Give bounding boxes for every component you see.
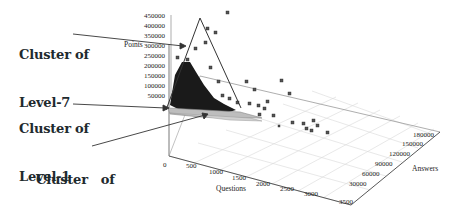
svg-text:350000: 350000 [144, 32, 166, 40]
svg-text:1500: 1500 [232, 174, 247, 182]
x-axis-label: Questions [216, 184, 246, 193]
svg-text:500: 500 [186, 162, 197, 170]
svg-text:1000: 1000 [209, 168, 224, 176]
svg-text:2500: 2500 [280, 185, 295, 193]
svg-text:120000: 120000 [389, 150, 411, 158]
svg-text:3500: 3500 [339, 198, 354, 206]
svg-text:0: 0 [163, 161, 167, 169]
svg-text:150000: 150000 [144, 72, 166, 80]
svg-text:250000: 250000 [144, 52, 166, 60]
svg-text:150000: 150000 [402, 140, 424, 148]
svg-text:200000: 200000 [144, 62, 166, 70]
svg-text:2000: 2000 [256, 180, 271, 188]
svg-text:90000: 90000 [375, 160, 393, 168]
scatter-points-dense [170, 62, 236, 114]
svg-text:400000: 400000 [144, 22, 166, 30]
svg-text:450000: 450000 [144, 12, 166, 20]
y-axis-label: Answers [412, 164, 438, 173]
annotation-cluster-level-4: Cluster of Level-4 [36, 140, 115, 210]
svg-text:3000: 3000 [304, 190, 319, 198]
svg-text:100000: 100000 [144, 82, 166, 90]
svg-text:50000: 50000 [148, 92, 166, 100]
x-tick-labels: 0 500 1000 1500 2000 2500 3000 3500 [163, 161, 354, 206]
svg-text:180000: 180000 [413, 131, 435, 139]
z-tick-labels: 450000 400000 350000 300000 250000 20000… [144, 12, 166, 100]
svg-text:30000: 30000 [349, 180, 367, 188]
svg-text:60000: 60000 [362, 170, 380, 178]
figure: 450000 400000 350000 300000 250000 20000… [0, 0, 459, 210]
